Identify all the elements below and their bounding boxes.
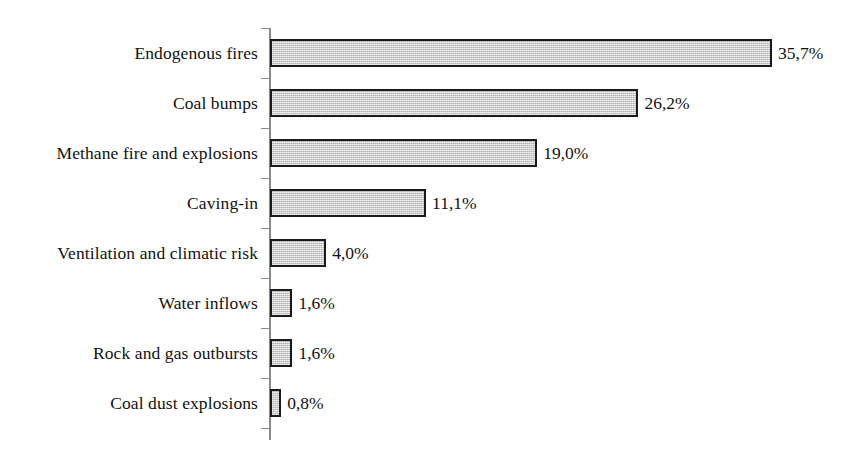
bar-value-label: 1,6% xyxy=(298,278,334,328)
bar-row: Ventilation and climatic risk4,0% xyxy=(0,228,853,278)
bar xyxy=(270,139,537,167)
bar-category-label: Caving-in xyxy=(0,178,258,228)
axis-tick xyxy=(261,428,269,429)
bar-category-label: Coal dust explosions xyxy=(0,378,258,428)
bar-value-label: 4,0% xyxy=(332,228,368,278)
bar-row: Rock and gas outbursts1,6% xyxy=(0,328,853,378)
bar-value-label: 11,1% xyxy=(432,178,477,228)
bar-row: Coal dust explosions0,8% xyxy=(0,378,853,428)
bar-category-label: Coal bumps xyxy=(0,78,258,128)
bar xyxy=(270,189,426,217)
bar-value-label: 35,7% xyxy=(778,28,823,78)
bar xyxy=(270,89,638,117)
bar-chart: Endogenous fires35,7%Coal bumps26,2%Meth… xyxy=(0,0,853,464)
bar-category-label: Water inflows xyxy=(0,278,258,328)
bar-row: Coal bumps26,2% xyxy=(0,78,853,128)
bar-value-label: 26,2% xyxy=(644,78,689,128)
bar xyxy=(270,289,292,317)
bar xyxy=(270,239,326,267)
plot-area: Endogenous fires35,7%Coal bumps26,2%Meth… xyxy=(0,0,853,464)
bar-value-label: 19,0% xyxy=(543,128,588,178)
bar-row: Methane fire and explosions19,0% xyxy=(0,128,853,178)
bar xyxy=(270,339,292,367)
bar-category-label: Endogenous fires xyxy=(0,28,258,78)
bar-row: Water inflows1,6% xyxy=(0,278,853,328)
bar-category-label: Ventilation and climatic risk xyxy=(0,228,258,278)
bar xyxy=(270,389,281,417)
bar-row: Endogenous fires35,7% xyxy=(0,28,853,78)
bar xyxy=(270,39,772,67)
bar-row: Caving-in11,1% xyxy=(0,178,853,228)
bar-value-label: 1,6% xyxy=(298,328,334,378)
bar-value-label: 0,8% xyxy=(287,378,323,428)
bar-category-label: Methane fire and explosions xyxy=(0,128,258,178)
bar-category-label: Rock and gas outbursts xyxy=(0,328,258,378)
